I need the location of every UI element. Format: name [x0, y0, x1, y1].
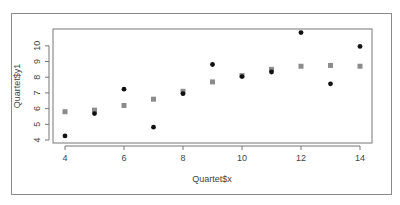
y-tick-label: 9 [32, 59, 42, 64]
x-tick-label: 4 [62, 153, 67, 163]
x-tick-label: 12 [296, 153, 306, 163]
y-axis: 45678910 [32, 41, 49, 143]
square-marker [210, 79, 215, 84]
circle-marker [358, 44, 363, 49]
plot-area [53, 29, 372, 143]
y-tick-label: 6 [32, 106, 42, 111]
circle-marker [92, 111, 97, 116]
circle-marker [210, 62, 215, 67]
circle-marker [240, 74, 245, 79]
circle-marker [151, 125, 156, 130]
x-tick-label: 14 [355, 153, 365, 163]
circle-marker [299, 30, 304, 35]
square-marker [358, 64, 363, 69]
scatter-plot: 45678910 468101214 Quartet$x Quartet$y1 [0, 0, 400, 205]
y-axis-title: Quartet$y1 [12, 64, 22, 109]
y-tick-label: 7 [32, 90, 42, 95]
circle-marker [63, 134, 68, 139]
x-axis: 468101214 [62, 146, 365, 163]
square-marker [299, 64, 304, 69]
x-axis-title: Quartet$x [192, 174, 232, 184]
circle-marker [122, 87, 127, 92]
square-marker [328, 63, 333, 68]
x-tick-label: 8 [180, 153, 185, 163]
y-tick-label: 5 [32, 122, 42, 127]
circle-marker [328, 81, 333, 86]
y-tick-label: 4 [32, 137, 42, 142]
circle-marker [181, 91, 186, 96]
x-tick-label: 10 [237, 153, 247, 163]
x-tick-label: 6 [121, 153, 126, 163]
circle-marker [269, 70, 274, 75]
square-marker [63, 109, 68, 114]
square-marker [151, 97, 156, 102]
y-tick-label: 10 [32, 41, 42, 51]
square-marker [122, 103, 127, 108]
y-tick-label: 8 [32, 75, 42, 80]
data-points [63, 30, 363, 138]
